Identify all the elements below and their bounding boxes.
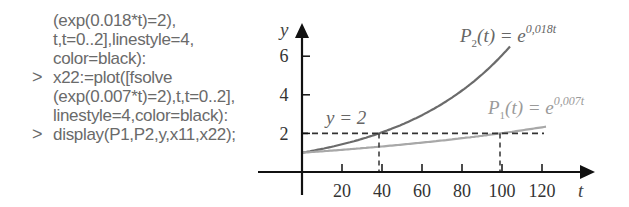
p1-label: P1(t) = e0,007t xyxy=(487,94,585,121)
y2-label: y = 2 xyxy=(324,107,367,128)
svg-text:60: 60 xyxy=(413,181,431,201)
svg-text:20: 20 xyxy=(333,181,351,201)
x-axis-arrow-icon xyxy=(580,165,595,179)
svg-text:120: 120 xyxy=(529,181,556,201)
y-ticks xyxy=(302,56,310,133)
curve-p1 xyxy=(302,127,546,153)
svg-text:4: 4 xyxy=(280,85,289,105)
y-axis-label: y xyxy=(278,19,289,40)
svg-text:100: 100 xyxy=(489,181,516,201)
p2-label: P2(t) = e0,018t xyxy=(459,22,557,49)
y-tick-labels: 2 4 6 xyxy=(280,46,289,144)
growth-chart: 20 40 60 80 100 120 t 2 4 6 y P2(t) = e0… xyxy=(0,0,629,207)
y-axis-arrow-icon xyxy=(295,23,309,38)
svg-text:40: 40 xyxy=(373,181,391,201)
x-tick-labels: 20 40 60 80 100 120 xyxy=(333,181,556,201)
svg-text:2: 2 xyxy=(280,124,289,144)
svg-text:80: 80 xyxy=(453,181,471,201)
svg-text:6: 6 xyxy=(280,46,289,66)
x-axis-label: t xyxy=(578,180,584,201)
x-ticks xyxy=(342,164,542,172)
